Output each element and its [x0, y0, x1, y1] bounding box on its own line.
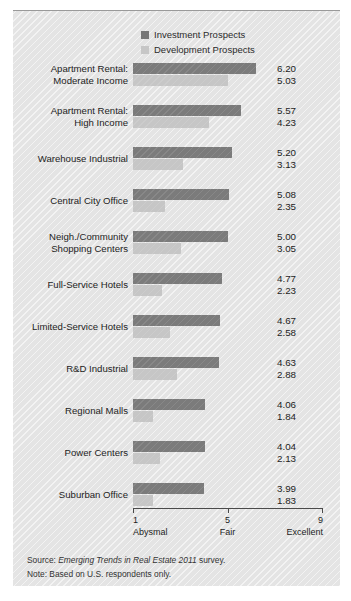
bar-development-prospects [133, 159, 183, 170]
category-label: Regional Malls [0, 405, 128, 417]
value-labels: 4.632.88 [277, 357, 337, 381]
legend-swatch-icon [141, 46, 149, 54]
value-investment-prospects: 5.20 [277, 147, 337, 159]
bar-development-prospects [133, 117, 209, 128]
source-suffix: survey. [197, 555, 226, 565]
chart-group: Regional Malls4.061.84 [13, 399, 340, 441]
axis-tick-sublabel: Excellent [286, 527, 323, 537]
value-development-prospects: 5.03 [277, 75, 337, 87]
value-development-prospects: 3.13 [277, 159, 337, 171]
axis-tick-label: 5 [225, 515, 230, 525]
axis-tick-label: 1 [133, 515, 138, 525]
source-prefix: Source: [27, 555, 58, 565]
value-labels: 5.574.23 [277, 105, 337, 129]
category-label: Apartment Rental: High Income [0, 105, 128, 128]
legend-label: Investment Prospects [154, 29, 245, 40]
value-labels: 6.205.03 [277, 63, 337, 87]
bar-investment-prospects [133, 147, 232, 158]
chart-group: Full-Service Hotels4.772.23 [13, 273, 340, 315]
value-investment-prospects: 4.06 [277, 399, 337, 411]
value-development-prospects: 1.83 [277, 495, 337, 507]
bar-investment-prospects [133, 441, 205, 452]
chart-group: Apartment Rental: High Income5.574.23 [13, 105, 340, 147]
source-title: Emerging Trends in Real Estate 2011 [58, 555, 196, 565]
legend-swatch-icon [141, 31, 149, 39]
axis-tick [133, 508, 134, 513]
bar-development-prospects [133, 327, 170, 338]
bar-investment-prospects [133, 483, 204, 494]
value-development-prospects: 2.58 [277, 327, 337, 339]
legend-item-investment-prospects: Investment Prospects [141, 28, 321, 41]
value-development-prospects: 2.35 [277, 201, 337, 213]
axis-tick-sublabel: Abysmal [133, 527, 168, 537]
chart-panel: Investment Prospects Development Prospec… [13, 10, 340, 586]
value-investment-prospects: 4.67 [277, 315, 337, 327]
bar-development-prospects [133, 453, 160, 464]
bar-investment-prospects [133, 105, 241, 116]
chart-group: Warehouse Industrial5.203.13 [13, 147, 340, 189]
value-investment-prospects: 5.00 [277, 231, 337, 243]
bar-development-prospects [133, 243, 181, 254]
chart-legend: Investment Prospects Development Prospec… [141, 28, 321, 58]
bar-investment-prospects [133, 357, 219, 368]
category-label: Limited-Service Hotels [0, 321, 128, 333]
bar-investment-prospects [133, 399, 205, 410]
legend-item-development-prospects: Development Prospects [141, 43, 321, 56]
category-label: Neigh./Community Shopping Centers [0, 231, 128, 254]
bar-development-prospects [133, 285, 162, 296]
value-labels: 5.203.13 [277, 147, 337, 171]
category-label: R&D Industrial [0, 363, 128, 375]
bar-development-prospects [133, 495, 153, 506]
value-investment-prospects: 4.77 [277, 273, 337, 285]
chart-figure: Investment Prospects Development Prospec… [0, 0, 351, 601]
bar-development-prospects [133, 411, 153, 422]
category-label: Apartment Rental: Moderate Income [0, 63, 128, 86]
category-label: Suburban Office [0, 489, 128, 501]
bar-development-prospects [133, 75, 228, 86]
respondents-note: Note: Based on U.S. respondents only. [27, 567, 327, 581]
value-development-prospects: 2.88 [277, 369, 337, 381]
bar-development-prospects [133, 369, 177, 380]
value-development-prospects: 3.05 [277, 243, 337, 255]
bar-investment-prospects [133, 273, 222, 284]
value-investment-prospects: 5.57 [277, 105, 337, 117]
chart-group: Central City Office5.082.35 [13, 189, 340, 231]
category-label: Power Centers [0, 447, 128, 459]
value-investment-prospects: 6.20 [277, 63, 337, 75]
value-investment-prospects: 5.08 [277, 189, 337, 201]
category-label: Full-Service Hotels [0, 279, 128, 291]
value-development-prospects: 2.13 [277, 453, 337, 465]
chart-group: R&D Industrial4.632.88 [13, 357, 340, 399]
bar-investment-prospects [133, 189, 229, 200]
chart-plot-area: Apartment Rental: Moderate Income6.205.0… [13, 63, 340, 525]
value-labels: 5.082.35 [277, 189, 337, 213]
chart-group: Power Centers4.042.13 [13, 441, 340, 483]
value-labels: 4.042.13 [277, 441, 337, 465]
legend-label: Development Prospects [154, 44, 255, 55]
category-label: Central City Office [0, 195, 128, 207]
value-labels: 4.672.58 [277, 315, 337, 339]
chart-group: Limited-Service Hotels4.672.58 [13, 315, 340, 357]
value-labels: 4.772.23 [277, 273, 337, 297]
chart-x-axis: 1Abysmal5Fair9Excellent [133, 508, 323, 548]
value-labels: 5.003.05 [277, 231, 337, 255]
value-development-prospects: 4.23 [277, 117, 337, 129]
bar-investment-prospects [133, 315, 220, 326]
chart-group: Apartment Rental: Moderate Income6.205.0… [13, 63, 340, 105]
chart-footnotes: Source: Emerging Trends in Real Estate 2… [27, 553, 327, 581]
axis-tick [322, 508, 323, 513]
axis-tick-label: 9 [318, 515, 323, 525]
axis-tick-sublabel: Fair [220, 527, 236, 537]
bar-investment-prospects [133, 63, 256, 74]
bar-development-prospects [133, 201, 165, 212]
value-investment-prospects: 4.04 [277, 441, 337, 453]
value-investment-prospects: 3.99 [277, 483, 337, 495]
axis-tick [228, 508, 229, 513]
value-development-prospects: 1.84 [277, 411, 337, 423]
value-investment-prospects: 4.63 [277, 357, 337, 369]
value-labels: 4.061.84 [277, 399, 337, 423]
value-development-prospects: 2.23 [277, 285, 337, 297]
category-label: Warehouse Industrial [0, 153, 128, 165]
bar-investment-prospects [133, 231, 228, 242]
chart-group: Neigh./Community Shopping Centers5.003.0… [13, 231, 340, 273]
